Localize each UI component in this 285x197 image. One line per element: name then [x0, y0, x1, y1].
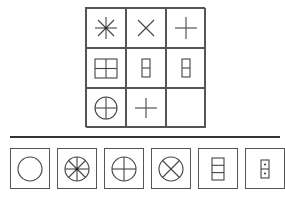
two-pane-rectangle-dots-icon [246, 150, 284, 188]
cell-r2c2 [126, 48, 166, 88]
option-2[interactable] [57, 148, 97, 189]
option-5[interactable] [198, 148, 238, 189]
x-cross-icon [127, 9, 165, 47]
circle-icon [11, 150, 49, 188]
four-pane-square-icon [87, 49, 125, 87]
cell-r2c3 [166, 48, 206, 88]
circle-plus-icon [105, 150, 143, 188]
two-pane-rectangle-icon [127, 49, 165, 87]
option-1[interactable] [10, 148, 50, 189]
cell-r3c2 [126, 88, 166, 128]
puzzle-grid [85, 7, 205, 127]
answer-options [10, 148, 285, 189]
circle-spokes-icon [58, 150, 96, 188]
plus-cross-icon [127, 89, 165, 127]
asterisk-icon [87, 9, 125, 47]
option-3[interactable] [104, 148, 144, 189]
divider-line [10, 136, 280, 138]
cell-r3c3-missing [166, 88, 206, 128]
cell-r1c1 [86, 8, 126, 48]
circle-plus-icon [87, 89, 125, 127]
three-pane-rectangle-icon [199, 150, 237, 188]
cell-r1c2 [126, 8, 166, 48]
cell-r3c1 [86, 88, 126, 128]
plus-cross-icon [167, 9, 205, 47]
circle-x-icon [152, 150, 190, 188]
cell-r1c3 [166, 8, 206, 48]
cell-r2c1 [86, 48, 126, 88]
option-4[interactable] [151, 148, 191, 189]
two-pane-rectangle-icon [167, 49, 205, 87]
option-6[interactable] [245, 148, 285, 189]
